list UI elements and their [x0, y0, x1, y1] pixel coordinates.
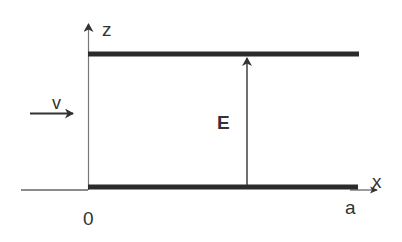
- velocity-label: v: [52, 93, 61, 113]
- z-axis-label: z: [102, 19, 112, 40]
- bottom-plate: [88, 185, 358, 190]
- field-label: E: [217, 112, 230, 133]
- plate-length-label: a: [345, 197, 356, 218]
- origin-label: 0: [83, 208, 94, 229]
- top-plate: [88, 52, 359, 57]
- x-axis-label: x: [372, 171, 382, 192]
- capacitor-diagram: z v E x a 0: [0, 0, 402, 242]
